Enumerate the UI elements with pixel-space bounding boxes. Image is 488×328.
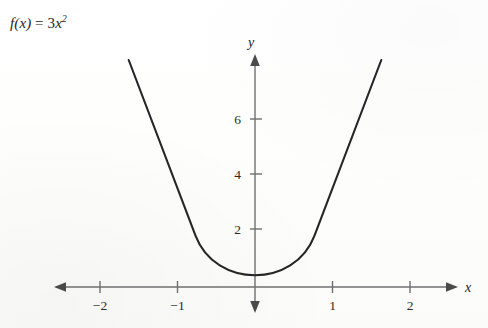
parabola-plot: −2 −1 1 2 2 4 6 x y <box>0 0 488 328</box>
x-tick-label-minus1: −1 <box>170 298 184 313</box>
x-tick-label-1: 1 <box>329 298 336 313</box>
x-axis-right-arrowhead <box>446 282 458 292</box>
y-axis-down-arrowhead <box>250 301 260 313</box>
y-tick-labels: 2 4 6 <box>234 112 241 237</box>
x-tick-label-minus2: −2 <box>93 298 107 313</box>
x-axis-label: x <box>464 280 472 295</box>
y-axis-label: y <box>246 35 255 50</box>
y-tick-label-4: 4 <box>234 167 241 182</box>
y-tick-marks <box>250 119 262 229</box>
figure-canvas: f(x) = 3x2 −2 −1 1 2 <box>0 0 488 328</box>
y-tick-label-6: 6 <box>234 112 241 127</box>
y-tick-label-2: 2 <box>234 222 241 237</box>
y-axis-up-arrowhead <box>250 54 260 66</box>
x-axis-left-arrowhead <box>54 282 66 292</box>
x-tick-label-2: 2 <box>407 298 414 313</box>
x-axis-group <box>54 282 458 292</box>
